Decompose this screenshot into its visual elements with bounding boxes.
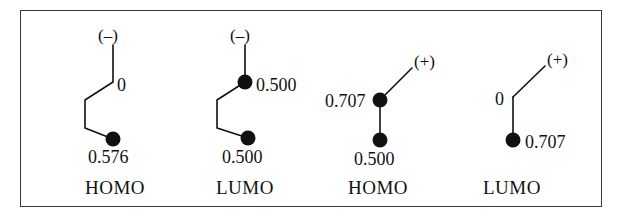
- panel-2-mo-label: HOMO: [348, 178, 408, 197]
- panel-2-interior-coefficient: 0.707: [325, 92, 366, 110]
- panel-0-terminal-lobe-dot: [106, 132, 121, 147]
- panel-3-mo-label: LUMO: [483, 178, 541, 197]
- panel-3-diagonal-path: [513, 66, 545, 97]
- panel-1-interior-lobe-dot: [238, 75, 253, 90]
- panel-0-skeleton-path: [85, 45, 113, 139]
- panel-2-phase-sign: (+): [414, 53, 435, 70]
- panel-1-skeleton-path: [217, 45, 248, 138]
- panel-2-terminal-lobe-dot: [373, 133, 388, 148]
- panel-2-interior-lobe-dot: [373, 93, 388, 108]
- panel-3-terminal-lobe-dot: [506, 133, 521, 148]
- panel-0-mo-label: HOMO: [85, 178, 145, 197]
- panel-1-phase-sign: (–): [230, 27, 250, 44]
- panel-3-terminal-coefficient: 0.707: [525, 133, 566, 151]
- panel-0-phase-sign: (–): [98, 27, 118, 44]
- panel-1-terminal-coefficient: 0.500: [222, 148, 263, 166]
- panel-0-terminal-coefficient: 0.576: [88, 148, 129, 166]
- panel-0-interior-coefficient: 0: [117, 76, 126, 94]
- panel-1-mo-label: LUMO: [216, 178, 274, 197]
- panel-2-terminal-coefficient: 0.500: [354, 150, 395, 168]
- panel-1-terminal-lobe-dot: [241, 131, 256, 146]
- molecular-orbital-figure: (–) 0 0.576 HOMO (–) 0.500 0.500 LUMO (+…: [0, 0, 621, 218]
- panel-3-phase-sign: (+): [547, 51, 568, 68]
- panel-3-interior-coefficient: 0: [495, 90, 504, 108]
- panel-1-interior-coefficient: 0.500: [256, 76, 297, 94]
